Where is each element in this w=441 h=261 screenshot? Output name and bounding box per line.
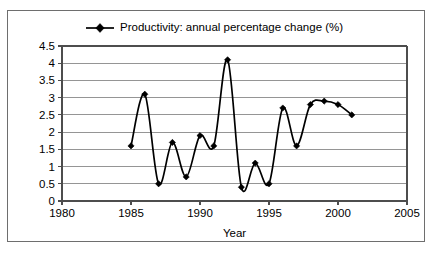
y-axis-tick-label: 4 <box>49 57 56 69</box>
y-axis-tick-label: 3.5 <box>39 74 55 86</box>
x-axis-title: Year <box>223 227 246 239</box>
x-axis-tick-label: 2005 <box>394 207 420 219</box>
data-point-marker <box>211 143 217 149</box>
x-axis-tick-label: 1995 <box>256 207 282 219</box>
y-axis-tick-label: 3 <box>49 92 55 104</box>
x-axis-tick-labels: 198019851990199520002005 <box>49 207 420 219</box>
tick-marks-group <box>58 46 407 205</box>
x-axis-tick-label: 1980 <box>49 207 75 219</box>
data-point-marker <box>197 132 203 138</box>
series-line-productivity <box>131 59 352 191</box>
y-axis-tick-label: 0.5 <box>39 178 55 190</box>
y-axis-tick-label: 0 <box>49 195 55 207</box>
chart-figure: Productivity: annual percentage change (… <box>0 0 441 261</box>
data-point-marker <box>128 143 134 149</box>
x-axis-tick-label: 2000 <box>325 207 351 219</box>
y-axis-tick-label: 4.5 <box>39 40 55 52</box>
y-axis-tick-label: 1 <box>49 161 55 173</box>
data-point-marker <box>321 98 327 104</box>
y-axis-tick-labels: 00.511.522.533.544.5 <box>39 40 56 207</box>
x-axis-tick-label: 1990 <box>187 207 213 219</box>
x-axis-tick-label: 1985 <box>118 207 144 219</box>
chart-plot-area: 00.511.522.533.544.5 1980198519901995200… <box>0 0 441 261</box>
data-point-marker <box>238 184 244 190</box>
y-axis-tick-label: 2.5 <box>39 109 55 121</box>
y-axis-tick-label: 2 <box>49 126 55 138</box>
y-axis-tick-label: 1.5 <box>39 143 55 155</box>
data-point-marker <box>156 181 162 187</box>
series-markers-productivity <box>128 57 355 191</box>
